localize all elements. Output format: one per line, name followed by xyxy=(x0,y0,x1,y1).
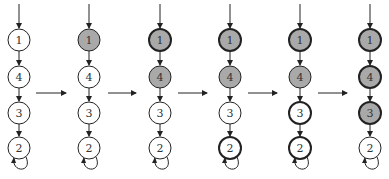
node-label: 2 xyxy=(297,142,304,155)
state-node-4: 4 xyxy=(149,66,171,88)
node-label: 4 xyxy=(367,71,374,84)
state-node-3: 3 xyxy=(149,102,171,124)
state-node-2: 2 xyxy=(149,137,171,159)
state-node-2: 2 xyxy=(219,137,241,159)
node-label: 4 xyxy=(297,71,304,84)
state-node-2: 2 xyxy=(8,137,30,159)
state-node-3: 3 xyxy=(219,102,241,124)
node-label: 2 xyxy=(157,142,164,155)
node-label: 1 xyxy=(227,34,234,47)
node-label: 4 xyxy=(157,71,164,84)
node-label: 1 xyxy=(86,34,93,47)
state-node-4: 4 xyxy=(8,66,30,88)
state-column-5: 1432 xyxy=(289,4,311,169)
node-label: 3 xyxy=(367,107,374,120)
node-label: 1 xyxy=(297,34,304,47)
node-label: 3 xyxy=(227,107,234,120)
state-node-2: 2 xyxy=(359,137,381,159)
state-node-4: 4 xyxy=(359,66,381,88)
state-node-1: 1 xyxy=(359,29,381,51)
state-node-3: 3 xyxy=(289,102,311,124)
node-label: 2 xyxy=(16,142,23,155)
state-node-3: 3 xyxy=(8,102,30,124)
node-label: 2 xyxy=(367,142,374,155)
state-column-2: 1432 xyxy=(78,4,100,169)
node-label: 4 xyxy=(227,71,234,84)
state-node-3: 3 xyxy=(78,102,100,124)
state-column-1: 1432 xyxy=(8,4,30,169)
state-sequence-diagram: 143214321432143214321432 xyxy=(0,0,389,179)
node-label: 1 xyxy=(16,34,23,47)
node-label: 1 xyxy=(157,34,164,47)
state-column-4: 1432 xyxy=(219,4,241,169)
node-label: 3 xyxy=(157,107,164,120)
node-label: 2 xyxy=(86,142,93,155)
node-label: 3 xyxy=(297,107,304,120)
state-node-1: 1 xyxy=(8,29,30,51)
state-node-1: 1 xyxy=(289,29,311,51)
columns: 143214321432143214321432 xyxy=(8,4,381,169)
state-node-2: 2 xyxy=(78,137,100,159)
node-label: 3 xyxy=(16,107,23,120)
node-label: 1 xyxy=(367,34,374,47)
node-label: 2 xyxy=(227,142,234,155)
state-column-6: 1432 xyxy=(359,4,381,169)
state-node-4: 4 xyxy=(78,66,100,88)
state-node-4: 4 xyxy=(289,66,311,88)
state-node-1: 1 xyxy=(149,29,171,51)
state-node-1: 1 xyxy=(78,29,100,51)
node-label: 3 xyxy=(86,107,93,120)
state-node-4: 4 xyxy=(219,66,241,88)
state-column-3: 1432 xyxy=(149,4,171,169)
state-node-3: 3 xyxy=(359,102,381,124)
state-node-2: 2 xyxy=(289,137,311,159)
node-label: 4 xyxy=(86,71,93,84)
state-node-1: 1 xyxy=(219,29,241,51)
node-label: 4 xyxy=(16,71,23,84)
